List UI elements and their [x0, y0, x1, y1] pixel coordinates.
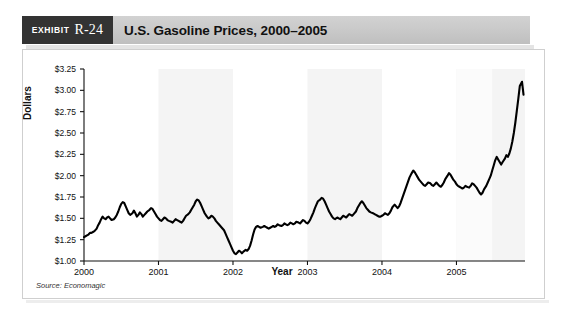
- x-axis-tick-label: 2005: [446, 267, 466, 277]
- year-band: [307, 69, 381, 261]
- y-axis-tick-label: $2.25: [42, 149, 76, 159]
- x-axis-tick-label: 2002: [223, 267, 243, 277]
- year-band: [158, 69, 232, 261]
- y-axis-tick-label: $3.00: [42, 85, 76, 95]
- exhibit-figure: Exhibit R-24 U.S. Gasoline Prices, 2000–…: [0, 0, 564, 315]
- plot-area: $3.25$3.00$2.75$2.50$2.25$2.00$1.75$1.50…: [0, 0, 564, 315]
- y-axis-tick-label: $1.00: [42, 256, 76, 266]
- y-axis-tick-label: $1.25: [42, 235, 76, 245]
- x-axis-tick-label: 2000: [74, 267, 94, 277]
- y-axis-tick-label: $2.50: [42, 128, 76, 138]
- y-axis-tick-label: $2.00: [42, 171, 76, 181]
- y-axis-tick-label: $3.25: [42, 64, 76, 74]
- y-axis-tick-label: $1.50: [42, 213, 76, 223]
- y-axis-tick-label: $2.75: [42, 107, 76, 117]
- year-band: [456, 69, 492, 261]
- y-axis-tick-label: $1.75: [42, 192, 76, 202]
- x-axis-tick-label: 2004: [372, 267, 392, 277]
- x-axis-tick-label: 2003: [297, 267, 317, 277]
- x-axis-tick-label: 2001: [148, 267, 168, 277]
